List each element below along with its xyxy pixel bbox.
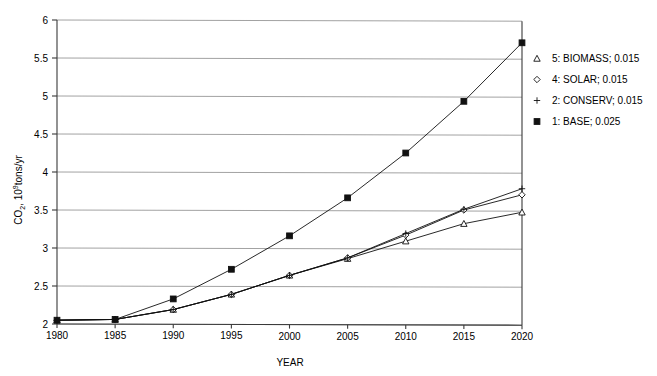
data-series <box>54 40 525 324</box>
legend-label: 2: CONSERV; 0.015 <box>552 95 643 106</box>
y-tick-label: 4 <box>42 167 48 178</box>
gridlines <box>57 20 522 325</box>
gridline <box>57 20 522 21</box>
y-tick-label: 4.5 <box>34 129 48 140</box>
x-tick-label: 1995 <box>220 330 243 341</box>
legend-label: 5: BIOMASS; 0.015 <box>552 53 640 64</box>
gridline <box>57 210 522 211</box>
legend-marker-triangle-icon <box>534 55 540 61</box>
data-point <box>519 209 525 215</box>
legend-label: 1: BASE; 0.025 <box>552 116 621 127</box>
legend-item-1[interactable]: 4: SOLAR; 0.015 <box>534 74 628 85</box>
series-biomass <box>54 209 525 323</box>
series-line <box>57 195 522 320</box>
data-point <box>519 192 525 198</box>
y-tick-label: 5 <box>42 91 48 102</box>
data-point <box>112 317 118 323</box>
series-line <box>57 212 522 320</box>
x-tick-label: 2015 <box>453 331 476 342</box>
data-point <box>54 317 60 323</box>
x-tick-label: 2005 <box>337 331 360 342</box>
x-axis-title: YEAR <box>276 357 303 368</box>
data-point <box>403 150 409 156</box>
legend-marker-square-filled-icon <box>534 119 540 125</box>
y-tick-label: 2 <box>42 319 48 330</box>
y-axis-title: CO2, 109tons/yr <box>12 155 26 225</box>
gridline <box>57 172 522 173</box>
data-point <box>345 195 351 201</box>
x-tick-label: 2020 <box>511 331 534 342</box>
y-tick-label: 3.5 <box>34 205 48 216</box>
y-tick-label: 6 <box>42 15 48 26</box>
y-tick-labels: 22.533.544.555.56 <box>34 15 57 330</box>
x-tick-label: 1980 <box>46 330 69 341</box>
gridline <box>57 96 522 97</box>
x-tick-label: 1985 <box>104 330 127 341</box>
legend-marker-diamond-icon <box>534 76 540 82</box>
data-point <box>519 40 525 46</box>
x-tick-label: 1990 <box>162 330 185 341</box>
legend: 5: BIOMASS; 0.0154: SOLAR; 0.0152: CONSE… <box>534 53 643 127</box>
data-point <box>461 98 467 104</box>
series-line <box>57 189 522 320</box>
svg-text:CO2, 109tons/yr: CO2, 109tons/yr <box>12 155 26 225</box>
co2-emissions-line-chart: 22.533.544.555.56 1980198519901995200020… <box>0 0 657 376</box>
chart-container: 22.533.544.555.56 1980198519901995200020… <box>0 0 657 376</box>
y-tick-label: 3 <box>42 243 48 254</box>
data-point <box>228 266 234 272</box>
legend-item-3[interactable]: 1: BASE; 0.025 <box>534 116 621 127</box>
data-point <box>170 296 176 302</box>
y-tick-label: 5.5 <box>34 53 48 64</box>
y-tick-label: 2.5 <box>34 281 48 292</box>
series-base <box>54 40 525 323</box>
gridline <box>57 58 522 59</box>
legend-item-0[interactable]: 5: BIOMASS; 0.015 <box>534 53 640 64</box>
legend-marker-plus-icon <box>534 97 540 103</box>
legend-item-2[interactable]: 2: CONSERV; 0.015 <box>534 95 643 106</box>
series-conserv <box>54 186 525 324</box>
legend-label: 4: SOLAR; 0.015 <box>552 74 628 85</box>
data-point <box>519 186 525 192</box>
gridline <box>57 286 522 287</box>
x-tick-label: 2010 <box>395 331 418 342</box>
x-tick-label: 2000 <box>278 331 301 342</box>
gridline <box>57 134 522 135</box>
data-point <box>287 233 293 239</box>
x-tick-labels: 198019851990199520002005201020152020 <box>46 324 534 342</box>
gridline <box>57 248 522 249</box>
